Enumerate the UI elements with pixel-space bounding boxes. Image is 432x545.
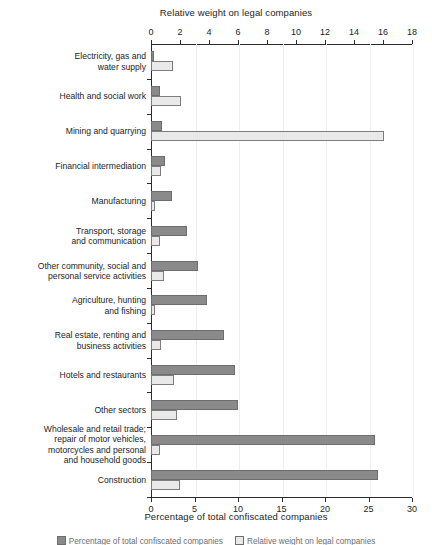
category-axis-tick [147, 149, 151, 150]
category-axis-tick [147, 114, 151, 115]
bottom-axis-tick [369, 498, 370, 502]
category-label: Real estate, renting and business activi… [2, 330, 146, 351]
bar-relative-weight-legal [151, 96, 181, 106]
bar-percentage-confiscated [151, 435, 375, 445]
top-axis-tick-label: 18 [407, 27, 417, 37]
bottom-axis-tick-label: 10 [233, 504, 243, 514]
bar-percentage-confiscated [151, 156, 165, 166]
category-label: Wholesale and retail trade; repair of mo… [2, 424, 146, 466]
category-label: Mining and quarrying [2, 126, 146, 136]
legend-label: Percentage of total confiscated companie… [69, 537, 223, 545]
bar-percentage-confiscated [151, 261, 198, 271]
category-label: Hotels and restaurants [2, 370, 146, 380]
gridline [370, 44, 371, 497]
gridline [283, 44, 284, 497]
plot-frame [151, 44, 412, 497]
bottom-axis-tick-label: 0 [148, 504, 153, 514]
category-label: Transport, storage and communication [2, 225, 146, 246]
gridline [326, 44, 327, 497]
bottom-axis-tick [325, 498, 326, 502]
top-axis-tick-label: 0 [148, 27, 153, 37]
bottom-axis-tick [195, 498, 196, 502]
bottom-axis-tick [282, 498, 283, 502]
legend-entry: Relative weight on legal companies [235, 536, 375, 545]
bottom-axis-tick [238, 498, 239, 502]
category-axis-tick [147, 358, 151, 359]
category-label: Electricity, gas and water supply [2, 51, 146, 72]
legend-swatch-dark [57, 536, 66, 545]
bar-percentage-confiscated [151, 191, 172, 201]
bar-relative-weight-legal [151, 305, 155, 315]
bottom-axis-tick [412, 498, 413, 502]
bar-relative-weight-legal [151, 375, 174, 385]
category-axis-tick [147, 462, 151, 463]
bar-relative-weight-legal [151, 166, 161, 176]
bar-relative-weight-legal [151, 410, 177, 420]
bar-percentage-confiscated [151, 330, 224, 340]
gridline [196, 44, 197, 497]
plot-area [151, 44, 412, 497]
bar-percentage-confiscated [151, 365, 235, 375]
bottom-axis-tick-label: 30 [407, 504, 417, 514]
category-label: Other community, social and personal ser… [2, 260, 146, 281]
bar-relative-weight-legal [151, 131, 384, 141]
bottom-axis-tick-label: 20 [320, 504, 330, 514]
category-label: Health and social work [2, 91, 146, 101]
legend-entry: Percentage of total confiscated companie… [57, 536, 223, 545]
top-axis-tick-label: 12 [320, 27, 330, 37]
bottom-axis-tick-label: 25 [363, 504, 373, 514]
category-axis-tick [147, 427, 151, 428]
chart-legend: Percentage of total confiscated companie… [0, 536, 432, 545]
category-label: Manufacturing [2, 196, 146, 206]
category-axis-tick [147, 323, 151, 324]
bar-percentage-confiscated [151, 226, 187, 236]
gridline [413, 44, 414, 497]
top-axis-tick-label: 16 [378, 27, 388, 37]
bar-percentage-confiscated [151, 86, 160, 96]
bar-percentage-confiscated [151, 470, 378, 480]
bar-percentage-confiscated [151, 400, 238, 410]
bar-percentage-confiscated [151, 121, 162, 131]
bar-percentage-confiscated [151, 51, 154, 61]
category-axis-tick [147, 253, 151, 254]
horizontal-bar-chart: Relative weight on legal companies Perce… [0, 0, 432, 545]
legend-swatch-light [235, 536, 244, 545]
top-axis-tick-label: 14 [349, 27, 359, 37]
category-label: Agriculture, hunting and fishing [2, 295, 146, 316]
bottom-axis-tick-label: 5 [192, 504, 197, 514]
bar-relative-weight-legal [151, 201, 155, 211]
bar-relative-weight-legal [151, 236, 160, 246]
bar-relative-weight-legal [151, 445, 160, 455]
category-axis-tick [147, 288, 151, 289]
bar-relative-weight-legal [151, 340, 161, 350]
bar-percentage-confiscated [151, 295, 207, 305]
top-axis-tick-label: 6 [235, 27, 240, 37]
category-label: Financial intermediation [2, 161, 146, 171]
bottom-axis-tick [151, 498, 152, 502]
legend-label: Relative weight on legal companies [247, 537, 375, 545]
category-label: Construction [2, 474, 146, 484]
bottom-axis-tick-label: 15 [276, 504, 286, 514]
gridline [239, 44, 240, 497]
category-label: Other sectors [2, 405, 146, 415]
bar-relative-weight-legal [151, 61, 173, 71]
category-axis-tick [147, 79, 151, 80]
bar-relative-weight-legal [151, 271, 164, 281]
category-axis-tick [147, 218, 151, 219]
category-label-column: Electricity, gas and water supplyHealth … [0, 0, 146, 545]
top-axis-tick-label: 2 [177, 27, 182, 37]
top-axis-tick-label: 10 [291, 27, 301, 37]
bar-relative-weight-legal [151, 480, 180, 490]
category-axis-tick [147, 497, 151, 498]
category-axis-tick [147, 183, 151, 184]
top-axis-tick-label: 8 [264, 27, 269, 37]
top-axis-tick-label: 4 [206, 27, 211, 37]
category-axis-tick [147, 392, 151, 393]
